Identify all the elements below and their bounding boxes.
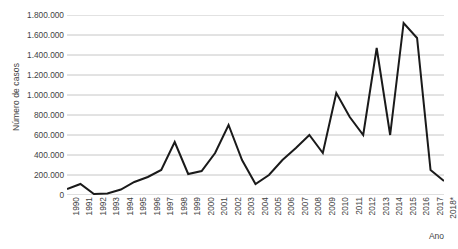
y-tick-label: 200.000 [14, 170, 64, 180]
y-tick-label: 800.000 [14, 110, 64, 120]
x-tick-label: 1998 [179, 197, 189, 215]
x-tick-label: 2002 [233, 197, 243, 215]
x-tick-label: 2017 [435, 197, 445, 215]
x-tick-label: 1992 [98, 197, 108, 215]
y-tick-label: 1.400.000 [14, 50, 64, 60]
x-tick-label: 1997 [165, 197, 175, 215]
y-axis-tick-labels: 0200.000400.000600.000800.0001.000.0001.… [14, 15, 64, 195]
x-tick-label: 2010 [340, 197, 350, 215]
x-tick-label: 2018* [448, 197, 458, 219]
y-tick-label: 0 [14, 190, 64, 200]
y-tick-label: 400.000 [14, 150, 64, 160]
x-tick-label: 2013 [381, 197, 391, 215]
x-tick-label: 2009 [327, 197, 337, 215]
x-tick-label: 1996 [152, 197, 162, 215]
x-tick-label: 1995 [138, 197, 148, 215]
y-tick-label: 1.600.000 [14, 30, 64, 40]
x-tick-label: 2011 [354, 197, 364, 215]
y-tick-label: 1.000.000 [14, 90, 64, 100]
x-tick-label: 2007 [300, 197, 310, 215]
x-tick-label: 1990 [71, 197, 81, 215]
chart-canvas [67, 15, 444, 195]
x-tick-label: 2012 [367, 197, 377, 215]
x-tick-label: 2003 [246, 197, 256, 215]
gridlines [67, 15, 444, 195]
x-tick-label: 2008 [313, 197, 323, 215]
x-tick-label: 2016 [421, 197, 431, 215]
y-tick-label: 1.200.000 [14, 70, 64, 80]
x-tick-label: 2004 [260, 197, 270, 215]
x-tick-label: 2014 [394, 197, 404, 215]
data-series-line [67, 23, 444, 194]
x-tick-label: 1991 [84, 197, 94, 215]
x-tick-label: 2006 [286, 197, 296, 215]
x-tick-label: 2001 [219, 197, 229, 215]
x-tick-label: 1994 [125, 197, 135, 215]
x-axis-tick-labels: 1990199119921993199419951996199719981999… [67, 197, 444, 231]
y-tick-label: 600.000 [14, 130, 64, 140]
y-tick-label: 1.800.000 [14, 10, 64, 20]
x-tick-label: 2005 [273, 197, 283, 215]
x-tick-label: 2000 [206, 197, 216, 215]
plot-area [67, 15, 444, 195]
x-tick-label: 1993 [111, 197, 121, 215]
x-axis-title: Ano [429, 231, 444, 241]
x-tick-label: 1999 [192, 197, 202, 215]
x-tick-label: 2015 [408, 197, 418, 215]
